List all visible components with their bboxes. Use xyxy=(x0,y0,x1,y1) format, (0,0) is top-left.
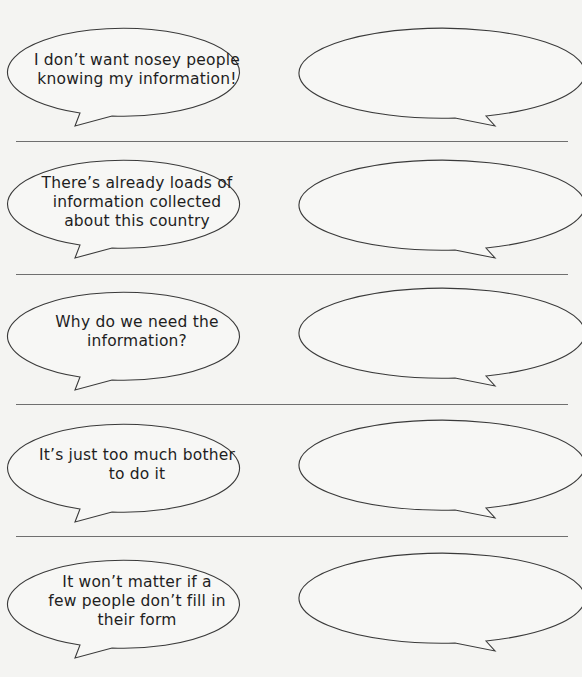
response-bubble-area[interactable] xyxy=(290,426,555,502)
response-bubble-area[interactable] xyxy=(290,166,555,242)
statement-row-3: Why do we need the information? xyxy=(0,264,582,394)
worksheet-page: I don’t want nosey people knowing my inf… xyxy=(0,0,582,677)
statement-row-2: There’s already loads of information col… xyxy=(0,132,582,262)
statement-row-1: I don’t want nosey people knowing my inf… xyxy=(0,0,582,130)
statement-row-5: It won’t matter if a few people don’t fi… xyxy=(0,527,582,657)
statement-row-4: It’s just too much bother to do it xyxy=(0,394,582,524)
response-bubble-area[interactable] xyxy=(290,559,555,635)
response-bubble-area[interactable] xyxy=(290,34,555,110)
response-bubble-area[interactable] xyxy=(290,294,555,370)
